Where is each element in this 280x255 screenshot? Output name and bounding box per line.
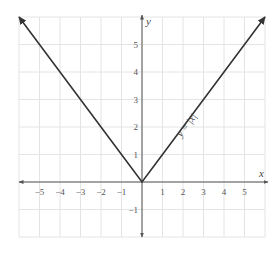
graph-canvas: −5−4−3−2−112345−112345 x y y = |x| <box>0 0 280 255</box>
y-tick-label: 2 <box>134 122 139 132</box>
x-tick-label: 5 <box>242 187 247 197</box>
x-tick-label: 1 <box>160 187 165 197</box>
y-tick-label: −1 <box>128 205 138 215</box>
y-tick-label: 5 <box>134 40 139 50</box>
y-tick-label: 3 <box>134 95 139 105</box>
x-tick-label: 3 <box>201 187 206 197</box>
y-tick-label: 1 <box>134 150 139 160</box>
x-tick-label: 2 <box>181 187 186 197</box>
x-tick-label: 4 <box>222 187 227 197</box>
x-tick-label: −5 <box>35 187 45 197</box>
x-tick-label: −4 <box>55 187 65 197</box>
y-axis-label: y <box>145 15 151 27</box>
y-tick-label: 4 <box>134 67 139 77</box>
function-label: y = |x| <box>173 111 198 139</box>
x-tick-label: −1 <box>117 187 127 197</box>
x-tick-label: −2 <box>96 187 106 197</box>
axes <box>19 15 268 237</box>
x-tick-label: −3 <box>76 187 86 197</box>
x-axis-label: x <box>258 167 264 179</box>
